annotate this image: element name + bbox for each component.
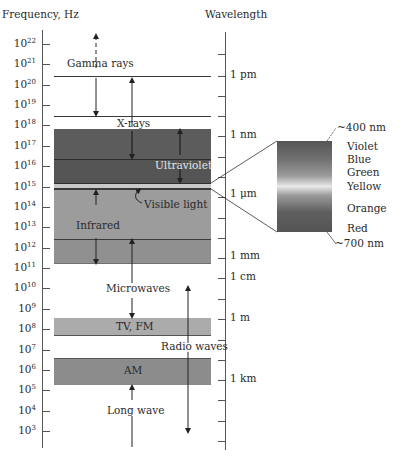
wavelength-1pm: 1 pm [230,68,257,80]
ultraviolet-label: Ultraviolet [155,159,212,171]
microwaves-label: Microwaves [106,282,170,294]
spectrum-green-label: Green [347,166,380,178]
visible-spectrum-box [277,141,332,232]
wavelength-1m: 1 m [230,311,250,323]
spectrum-blue-label: Blue [347,153,371,165]
spectrum-700nm-label: ~700 nm [335,237,384,249]
wavelength-1um: 1 μm [230,187,257,199]
x-rays-label: X-rays [117,117,150,129]
radio-waves-label: Radio waves [161,340,228,352]
am-label: AM [124,364,142,376]
spectrum-red-label: Red [347,222,368,234]
400nm-leader [327,128,336,141]
wavelength-1km: 1 km [230,372,256,384]
infrared-label: Infrared [76,219,120,231]
tvfm-label: TV, FM [116,320,153,332]
long-wave-label: Long wave [106,404,166,416]
spectrum-violet-label: Violet [347,140,378,152]
wavelength-1mm: 1 mm [230,249,260,261]
spectrum-zoom-line-top [211,141,277,183]
gamma-rays-label: Gamma rays [67,57,134,69]
visible-light-pointer [136,190,142,203]
wavelength-1cm: 1 cm [230,270,256,282]
spectrum-400nm-label: ~400 nm [337,121,386,133]
arrows-layer [0,0,405,458]
spectrum-yellow-label: Yellow [347,180,381,192]
wavelength-1nm: 1 nm [230,128,257,140]
visible-light-label: Visible light [144,198,208,210]
spectrum-orange-label: Orange [347,202,387,214]
